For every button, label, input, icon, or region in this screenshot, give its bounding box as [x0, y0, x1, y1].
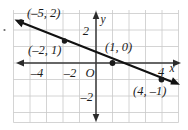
- origin-label: O: [85, 66, 94, 80]
- y-axis-label: y: [99, 13, 106, 26]
- point-label-1-0: (1, 0): [105, 40, 132, 54]
- point-label-4-neg1: (4, –1): [133, 84, 166, 98]
- point-label-neg5-2: (–5, 2): [27, 6, 60, 20]
- x-tick-label-pos4: 4: [158, 65, 164, 79]
- coordinate-plane-figure: (–5, 2) (–2, 1) (1, 0) (4, –1) –4 –2 4 2…: [0, 0, 188, 130]
- y-tick-label-pos2: 2: [83, 24, 89, 38]
- x-axis-label: x: [168, 62, 175, 74]
- graph-screenshot: (–5, 2) (–2, 1) (1, 0) (4, –1) –4 –2 4 2…: [0, 0, 188, 130]
- page-artifact-dot: [3, 29, 5, 31]
- data-point-neg2-1: [62, 38, 67, 43]
- x-tick-label-neg2: –2: [63, 66, 77, 80]
- data-point-neg5-2: [18, 19, 23, 24]
- x-tick-label-neg4: –4: [30, 66, 44, 80]
- y-tick-label-neg2: –2: [80, 90, 94, 104]
- data-point-1-0: [110, 60, 116, 66]
- point-label-neg2-1: (–2, 1): [28, 43, 61, 57]
